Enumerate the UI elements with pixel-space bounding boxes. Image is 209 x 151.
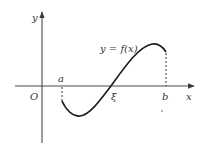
xi-label: ξ xyxy=(111,91,117,102)
stray-dot xyxy=(161,110,163,112)
y-axis-label: y xyxy=(31,12,38,23)
function-label: y = f(x) xyxy=(99,43,138,54)
x-axis-label: x xyxy=(186,91,192,102)
a-label: a xyxy=(58,73,64,84)
function-curve xyxy=(62,44,166,116)
function-graph: y O x a b ξ y = f(x) xyxy=(0,0,209,151)
origin-label: O xyxy=(30,91,38,102)
b-label: b xyxy=(162,91,168,102)
